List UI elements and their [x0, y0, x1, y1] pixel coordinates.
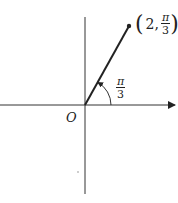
point-marker [127, 24, 131, 28]
scan-speck [77, 171, 78, 172]
angle-arc [98, 83, 111, 106]
point-label: ( 2, π 3 ) [135, 12, 178, 36]
point-r-label: 2, [146, 16, 159, 32]
open-paren: ( [135, 13, 144, 35]
close-paren: ) [170, 13, 178, 35]
angle-label: π 3 [116, 76, 125, 100]
origin-label: O [66, 110, 77, 125]
point-theta-fraction: π 3 [161, 12, 170, 36]
polar-diagram: ( 2, π 3 ) π 3 O [0, 0, 178, 203]
